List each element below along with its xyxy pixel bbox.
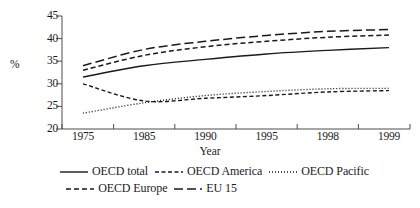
legend-entry-oecd-america[interactable]: OECD America (154, 165, 262, 178)
legend-entry-oecd-europe[interactable]: OECD Europe (65, 182, 167, 195)
legend-swatch-icon (59, 167, 89, 177)
x-axis-label: Year (0, 145, 420, 158)
legend-label: OECD total (92, 165, 148, 178)
x-tick-1998: 1998 (306, 130, 350, 143)
x-tick-1995: 1995 (245, 130, 289, 143)
x-tick-1999: 1999 (367, 130, 411, 143)
x-axis-ticks (62, 124, 410, 129)
y-axis-ticks (56, 16, 62, 129)
legend-entry-eu-15[interactable]: EU 15 (173, 182, 237, 195)
x-axis-tick-labels: 197519851990199519981999 (62, 130, 410, 146)
legend-entry-oecd-total[interactable]: OECD total (59, 165, 148, 178)
x-tick-1990: 1990 (183, 130, 227, 143)
series-line-oecd-america (83, 84, 389, 102)
x-tick-1975: 1975 (61, 130, 105, 143)
legend-label: OECD Europe (98, 182, 167, 195)
chart-figure: % 202530354045 197519851990199519981999 … (0, 0, 420, 208)
series-line-oecd-total (83, 48, 389, 77)
legend-swatch-icon (173, 184, 203, 194)
axis-lines (62, 16, 410, 129)
legend-label: OECD Pacific (301, 165, 369, 178)
legend-swatch-icon (65, 184, 95, 194)
x-tick-1985: 1985 (122, 130, 166, 143)
legend-swatch-icon (268, 167, 298, 177)
legend-row-bottom: OECD EuropeEU 15 (0, 180, 420, 197)
series-lines (83, 30, 389, 114)
legend-entry-oecd-pacific[interactable]: OECD Pacific (268, 165, 369, 178)
legend-row-top: OECD totalOECD AmericaOECD Pacific (0, 163, 420, 180)
legend-swatch-icon (154, 167, 184, 177)
chart-legend: OECD totalOECD AmericaOECD Pacific OECD … (0, 163, 420, 197)
series-line-eu-15 (83, 30, 389, 66)
legend-label: OECD America (187, 165, 262, 178)
legend-label: EU 15 (206, 182, 237, 195)
